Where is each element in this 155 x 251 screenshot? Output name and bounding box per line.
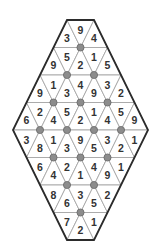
cell-number: 2 (78, 224, 84, 236)
vertex-dot (90, 71, 97, 78)
vertex-dot (63, 126, 70, 133)
cell-number: 9 (132, 114, 138, 126)
vertex-dot (77, 99, 84, 106)
cell-number: 3 (78, 189, 84, 201)
cell-number: 2 (64, 161, 70, 173)
cell-number: 1 (91, 106, 97, 118)
vertex-dot (63, 181, 70, 188)
vertex-dot (36, 126, 43, 133)
cell-number: 8 (37, 142, 43, 154)
cell-number: 1 (51, 79, 57, 91)
vertex-dot (77, 44, 84, 51)
vertex-dot (50, 154, 57, 161)
cell-number: 6 (24, 114, 30, 126)
vertex-dot (77, 154, 84, 161)
cell-number: 5 (64, 51, 70, 63)
cell-number: 1 (118, 161, 124, 173)
cell-number: 5 (91, 197, 97, 209)
cell-number: 5 (118, 106, 124, 118)
cell-number: 1 (132, 134, 138, 146)
cell-number: 1 (51, 134, 57, 146)
cell-number: 2 (37, 106, 43, 118)
cell-number: 4 (78, 79, 84, 91)
vertex-dot (90, 181, 97, 188)
cell-number: 5 (91, 142, 97, 154)
cell-number: 9 (91, 87, 97, 99)
cell-number: 3 (64, 142, 70, 154)
cell-number: 3 (64, 32, 70, 44)
cell-number: 2 (78, 59, 84, 71)
vertex-dot (63, 71, 70, 78)
cell-number: 3 (24, 134, 30, 146)
cell-number: 4 (91, 32, 97, 44)
cell-number: 2 (78, 114, 84, 126)
cell-number: 3 (105, 134, 111, 146)
cell-number: 5 (64, 106, 70, 118)
cell-number: 2 (118, 87, 124, 99)
cell-number: 6 (64, 197, 70, 209)
cell-number: 3 (64, 87, 70, 99)
cell-number: 2 (118, 142, 124, 154)
vertex-dot (77, 209, 84, 216)
cell-number: 7 (64, 216, 70, 228)
cell-layer (13, 20, 148, 240)
vertex-dot (117, 126, 124, 133)
cell-number: 9 (105, 169, 111, 181)
cell-number: 6 (37, 161, 43, 173)
cell-number: 3 (105, 79, 111, 91)
puzzle-board: 3949521591349326245214593813953216421491… (0, 0, 155, 251)
cell-number: 9 (51, 59, 57, 71)
cell-number: 1 (78, 169, 84, 181)
cell-number: 4 (51, 114, 57, 126)
cell-number: 5 (105, 59, 111, 71)
cell-number: 4 (91, 161, 97, 173)
vertex-dot (104, 99, 111, 106)
cell-number: 9 (78, 134, 84, 146)
cell-number: 2 (105, 189, 111, 201)
cell-number: 4 (51, 169, 57, 181)
cell-number: 1 (91, 51, 97, 63)
cell-number: 9 (37, 87, 43, 99)
vertex-dot (50, 99, 57, 106)
vertex-dot (104, 154, 111, 161)
cell-number: 9 (78, 24, 84, 36)
cell-number: 4 (105, 114, 111, 126)
cell-number: 8 (51, 189, 57, 201)
cell-number: 1 (91, 216, 97, 228)
vertex-dot (90, 126, 97, 133)
